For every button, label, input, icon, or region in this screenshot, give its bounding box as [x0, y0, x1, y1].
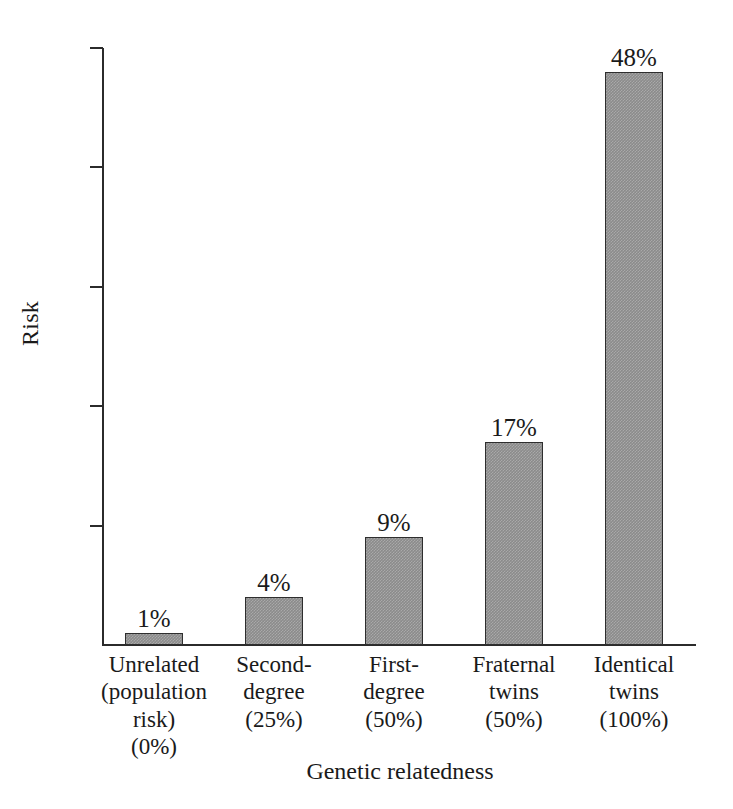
- y-axis-line: [102, 48, 104, 646]
- bar-value-label: 17%: [491, 415, 537, 440]
- y-tick-mark: [90, 47, 103, 49]
- bar[interactable]: 1%: [125, 633, 183, 645]
- y-tick-mark: [90, 525, 103, 527]
- y-tick-50: 50: [0, 47, 103, 49]
- y-tick-0: 0: [0, 644, 103, 646]
- plot-area: 50 40 30 20 10 0 Risk 1%: [0, 0, 733, 809]
- bar-value-label: 48%: [611, 45, 657, 70]
- bar[interactable]: 4%: [245, 597, 303, 645]
- bar-value-label: 9%: [377, 510, 410, 535]
- category-line: (0%): [74, 733, 234, 760]
- x-axis-title: Genetic relatedness: [103, 758, 697, 785]
- bar-value-label: 1%: [137, 606, 170, 631]
- y-tick-40: 40: [0, 166, 103, 168]
- chart-page: 50 40 30 20 10 0 Risk 1%: [0, 0, 733, 809]
- category-line: (100%): [554, 706, 714, 733]
- bar-value-label: 4%: [257, 570, 290, 595]
- x-category-label: Identical twins (100%): [554, 651, 714, 733]
- y-tick-30: 30: [0, 286, 103, 288]
- y-tick-10: 10: [0, 525, 103, 527]
- y-tick-mark: [90, 405, 103, 407]
- category-line: twins: [554, 678, 714, 705]
- y-tick-mark: [90, 286, 103, 288]
- category-line: Identical: [554, 651, 714, 678]
- y-tick-20: 20: [0, 405, 103, 407]
- y-axis-title: Risk: [17, 278, 44, 370]
- y-tick-mark: [90, 166, 103, 168]
- bar[interactable]: 48%: [605, 72, 663, 645]
- bar[interactable]: 17%: [485, 442, 543, 645]
- bar[interactable]: 9%: [365, 537, 423, 645]
